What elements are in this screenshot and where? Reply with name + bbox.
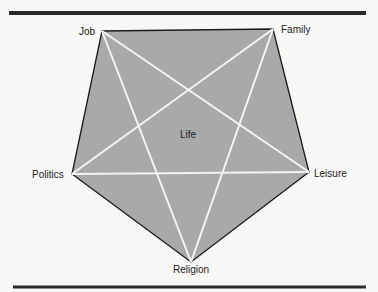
node-label-politics: Politics <box>32 169 64 181</box>
node-label-religion: Religion <box>173 264 209 276</box>
node-label-job: Job <box>79 26 95 38</box>
node-label-family: Family <box>281 24 310 36</box>
node-label-leisure: Leisure <box>314 168 347 180</box>
center-label-life: Life <box>180 129 196 141</box>
pentagram-diagram <box>0 0 378 292</box>
pentagon-shape <box>72 29 309 262</box>
